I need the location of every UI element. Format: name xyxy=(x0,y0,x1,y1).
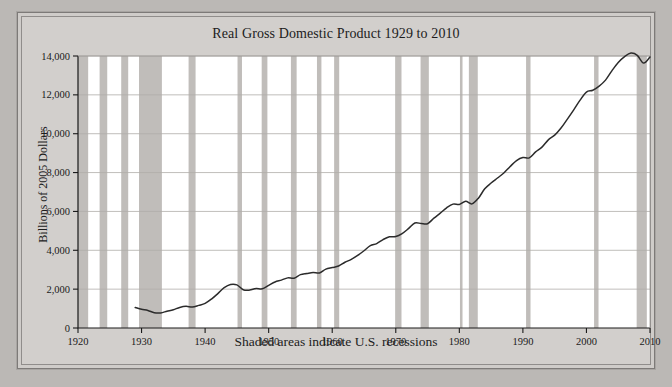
y-tick-label: 12,000 xyxy=(41,89,70,100)
recession-band xyxy=(421,56,429,328)
y-axis-group: 02,0004,0006,0008,00010,00012,00014,000 xyxy=(41,51,78,334)
recession-band xyxy=(460,56,463,328)
recession-band xyxy=(121,56,128,328)
plot-area-background xyxy=(78,56,650,328)
y-tick-label: 10,000 xyxy=(41,128,70,139)
recession-band xyxy=(317,56,321,328)
y-tick-label: 4,000 xyxy=(46,245,70,256)
recession-band xyxy=(395,56,401,328)
recession-band xyxy=(139,56,162,328)
recession-band xyxy=(78,56,88,328)
chart-figure-inner-frame: Real Gross Domestic Product 1929 to 2010… xyxy=(21,16,651,365)
screenshot-page: Real Gross Domestic Product 1929 to 2010… xyxy=(0,0,672,387)
recession-band xyxy=(594,56,598,328)
y-tick-label: 6,000 xyxy=(46,206,70,217)
chart-figure: Real Gross Domestic Product 1929 to 2010… xyxy=(17,12,655,369)
recession-band xyxy=(637,56,647,328)
y-tick-label: 2,000 xyxy=(46,284,70,295)
x-axis-caption: Shaded areas indicate U.S. recessions xyxy=(22,334,650,350)
recession-band xyxy=(334,56,339,328)
y-tick-label: 0 xyxy=(65,323,70,334)
recession-band xyxy=(526,56,530,328)
y-tick-label: 8,000 xyxy=(46,167,70,178)
recession-band xyxy=(100,56,108,328)
gdp-line-chart: 02,0004,0006,0008,00010,00012,00014,0001… xyxy=(22,17,652,366)
y-tick-label: 14,000 xyxy=(41,51,70,62)
recession-band xyxy=(189,56,196,328)
recession-band xyxy=(469,56,478,328)
recession-band xyxy=(291,56,297,328)
